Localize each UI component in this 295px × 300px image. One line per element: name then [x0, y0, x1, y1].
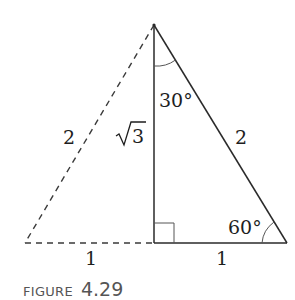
- triangle-figure: 30° 2 2 3 60° 1 1 FIGURE 4.29: [0, 0, 295, 300]
- angle-arc-60: [262, 222, 274, 243]
- angle-arc-30: [154, 60, 176, 66]
- label-top-angle: 30°: [159, 89, 193, 111]
- right-angle-marker: [154, 223, 174, 243]
- label-height: 3: [116, 122, 146, 147]
- label-right-base: 1: [216, 247, 228, 269]
- label-left-hypotenuse: 2: [63, 126, 75, 148]
- label-height-radicand: 3: [132, 125, 144, 147]
- label-right-hypotenuse: 2: [235, 126, 247, 148]
- apex-point: [152, 23, 155, 26]
- label-bottom-right-angle: 60°: [228, 216, 262, 238]
- right-hypotenuse: [154, 25, 287, 243]
- caption-number: 4.29: [81, 278, 123, 300]
- label-left-base: 1: [85, 247, 97, 269]
- caption-word: FIGURE: [23, 284, 73, 299]
- figure-caption: FIGURE 4.29: [23, 278, 123, 300]
